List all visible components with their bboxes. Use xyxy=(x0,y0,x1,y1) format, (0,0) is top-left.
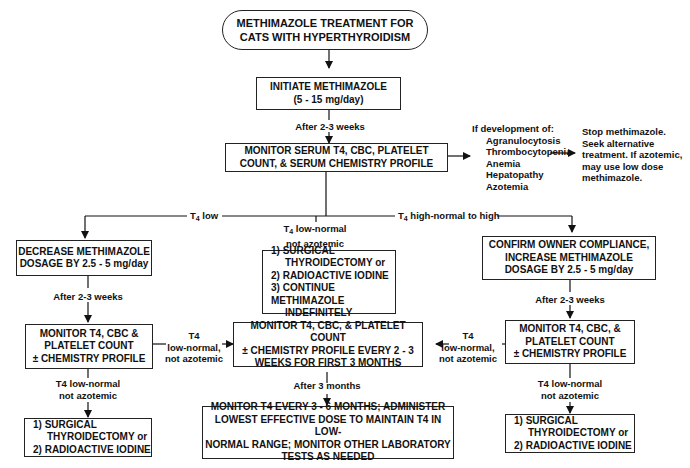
title-terminator: METHIMAZOLE TREATMENT FOR CATS WITH HYPE… xyxy=(222,10,428,50)
condition-line: T4 low-normal xyxy=(522,378,618,390)
monitor-right-line: MONITOR T4, CBC, & xyxy=(506,323,634,336)
monitor-serum-line-1: MONITOR SERUM T4, CBC, PLATELET xyxy=(226,145,447,158)
confirm-line-1: CONFIRM OWNER COMPLIANCE, xyxy=(483,239,655,252)
confirm-line-3: DOSAGE BY 2.5 - 5 mg/day xyxy=(483,264,655,277)
monitor-right-box: MONITOR T4, CBC, & PLATELET COUNT ± CHEM… xyxy=(505,320,635,364)
condition-line: not azotemic xyxy=(522,390,618,402)
initiate-methimazole-box: INITIATE METHIMAZOLE (5 - 15 mg/day) xyxy=(256,77,401,110)
option-line: 1) SURGICAL xyxy=(271,245,395,258)
after-initiate-label: After 2-3 weeks xyxy=(290,121,370,133)
link-left-label: T4 low-normal, not azotemic xyxy=(160,330,228,365)
stop-line: treatment. If azotemic, xyxy=(582,149,682,161)
long-term-line: TESTS AS NEEDED xyxy=(203,451,453,464)
option-line: 2) RADIOACTIVE IODINE xyxy=(271,270,395,283)
adverse-heading: If development of: xyxy=(472,123,572,135)
monitor-left-box: MONITOR T4, CBC & PLATELET COUNT ± CHEMI… xyxy=(25,324,153,369)
after-right-label: After 2-3 weeks xyxy=(530,294,610,306)
condition-line: T4 low-normal xyxy=(40,378,136,390)
link-line: low-normal, xyxy=(432,342,504,354)
link-line: not azotemic xyxy=(432,353,504,365)
link-right-label: T4 low-normal, not azotemic xyxy=(432,330,504,365)
confirm-line-2: INCREASE METHIMAZOLE xyxy=(483,252,655,265)
monitor-serum-box: MONITOR SERUM T4, CBC, PLATELET COUNT, &… xyxy=(225,143,448,172)
confirm-compliance-box: CONFIRM OWNER COMPLIANCE, INCREASE METHI… xyxy=(482,236,656,280)
branch-text: low-normal xyxy=(293,223,346,234)
adverse-item: Anemia xyxy=(472,158,572,170)
monitor-center-line: MONITOR T4, CBC, & PLATELET COUNT xyxy=(234,320,422,345)
link-line: T4 xyxy=(160,330,228,342)
stop-line: may use low dose xyxy=(582,161,682,173)
right-final-options-box: 1) SURGICAL THYROIDECTOMY or 2) RADIOACT… xyxy=(505,414,635,453)
title-line-2: CATS WITH HYPERTHYROIDISM xyxy=(223,30,427,44)
monitor-right-line: PLATELET COUNT xyxy=(506,336,634,349)
branch-t4-high-label: T4 high-normal to high xyxy=(398,210,500,225)
after-left-label: After 2-3 weeks xyxy=(48,291,128,303)
treatment-options-box: 1) SURGICAL THYROIDECTOMY or 2) RADIOACT… xyxy=(262,250,396,314)
option-line: 3) CONTINUE METHIMAZOLE xyxy=(271,282,395,307)
monitor-serum-line-2: COUNT, & SERUM CHEMISTRY PROFILE xyxy=(226,158,447,171)
monitor-left-line: MONITOR T4, CBC & xyxy=(26,328,152,341)
long-term-line: NORMAL RANGE; MONITOR OTHER LABORATORY xyxy=(203,439,453,452)
adverse-item: Hepatopathy xyxy=(472,169,572,181)
right-condition-label: T4 low-normal not azotemic xyxy=(522,378,618,401)
option-line: THYROIDECTOMY or xyxy=(514,427,634,440)
after-3-months-label: After 3 months xyxy=(287,380,367,392)
adverse-effects-list: If development of: Agranulocytosis Throm… xyxy=(472,123,572,192)
link-line: T4 xyxy=(432,330,504,342)
monitor-center-line: WEEKS FOR FIRST 3 MONTHS xyxy=(234,357,422,370)
left-final-options-box: 1) SURGICAL THYROIDECTOMY or 2) RADIOACT… xyxy=(24,418,152,457)
stop-line: Stop methimazole. xyxy=(582,126,682,138)
long-term-line: MONITOR T4 EVERY 3 - 6 MONTHS; ADMINISTE… xyxy=(203,401,453,414)
left-condition-label: T4 low-normal not azotemic xyxy=(40,378,136,401)
option-line: 1) SURGICAL xyxy=(33,419,151,432)
condition-line: not azotemic xyxy=(40,390,136,402)
stop-line: methimazole. xyxy=(582,172,682,184)
monitor-left-line: ± CHEMISTRY PROFILE xyxy=(26,353,152,366)
initiate-line-2: (5 - 15 mg/day) xyxy=(257,94,400,107)
option-line: 2) RADIOACTIVE IODINE xyxy=(33,444,151,457)
title-line-1: METHIMAZOLE TREATMENT FOR xyxy=(223,16,427,30)
stop-line: Seek alternative xyxy=(582,138,682,150)
branch-text: high-normal to high xyxy=(408,210,500,221)
option-line: 2) RADIOACTIVE IODINE xyxy=(514,440,634,453)
option-line: THYROIDECTOMY or xyxy=(271,257,395,270)
adverse-item: Thrombocytopenia xyxy=(472,146,572,158)
decrease-line-1: DECREASE METHIMAZOLE xyxy=(17,246,151,259)
stop-methimazole-text: Stop methimazole. Seek alternative treat… xyxy=(582,126,682,184)
initiate-line-1: INITIATE METHIMAZOLE xyxy=(257,81,400,94)
branch-t4-low-label: T4 low xyxy=(190,210,218,225)
decrease-line-2: DOSAGE BY 2.5 - 5 mg/day xyxy=(17,258,151,271)
monitor-center-box: MONITOR T4, CBC, & PLATELET COUNT ± CHEM… xyxy=(233,322,423,367)
option-line: THYROIDECTOMY or xyxy=(33,431,151,444)
decrease-dosage-box: DECREASE METHIMAZOLE DOSAGE BY 2.5 - 5 m… xyxy=(16,240,152,276)
link-line: low-normal, xyxy=(160,342,228,354)
monitor-left-line: PLATELET COUNT xyxy=(26,340,152,353)
branch-text: low xyxy=(200,210,218,221)
monitor-center-line: ± CHEMISTRY PROFILE EVERY 2 - 3 xyxy=(234,345,422,358)
long-term-line: LOWEST EFFECTIVE DOSE TO MAINTAIN T4 IN … xyxy=(203,414,453,439)
option-line: 1) SURGICAL xyxy=(514,415,634,428)
adverse-item: Agranulocytosis xyxy=(472,135,572,147)
option-line: INDEFINITELY xyxy=(271,307,395,320)
monitor-right-line: ± CHEMISTRY PROFILE xyxy=(506,348,634,361)
adverse-item: Azotemia xyxy=(472,181,572,193)
long-term-monitoring-box: MONITOR T4 EVERY 3 - 6 MONTHS; ADMINISTE… xyxy=(202,406,454,459)
link-line: not azotemic xyxy=(160,353,228,365)
